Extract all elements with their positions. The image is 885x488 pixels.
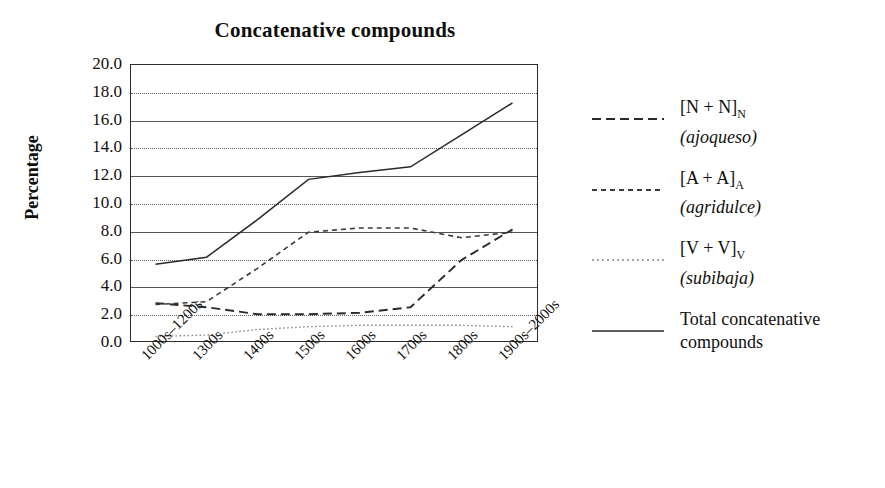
legend-label-v-plus-v: [V + V]V(subibaja) bbox=[680, 237, 877, 290]
legend-entry-a-plus-a[interactable]: [A + A]A(agridulce) bbox=[592, 167, 877, 220]
legend-label-secondary: compounds bbox=[680, 331, 877, 354]
legend-label-total: Total concatenativecompounds bbox=[680, 308, 877, 354]
y-tick-label: 10.0 bbox=[58, 194, 122, 211]
legend-label-secondary: (agridulce) bbox=[680, 196, 877, 219]
legend-swatch-a-plus-a bbox=[592, 178, 664, 180]
series-line bbox=[156, 228, 513, 304]
legend-label-main: Total concatenative bbox=[680, 309, 820, 329]
legend-label-main: [V + V] bbox=[680, 238, 737, 258]
y-tick-label: 20.0 bbox=[58, 55, 122, 72]
legend-entry-n-plus-n[interactable]: [N + N]N(ajoqueso) bbox=[592, 96, 877, 149]
legend-label-a-plus-a: [A + A]A(agridulce) bbox=[680, 167, 877, 220]
x-axis-tick-labels: 1000s–1200s1300s1400s1500s1600s1700s1800… bbox=[130, 342, 538, 482]
chart-title: Concatenative compounds bbox=[130, 18, 540, 43]
legend-label-secondary: (ajoqueso) bbox=[680, 126, 877, 149]
legend-swatch-v-plus-v bbox=[592, 248, 664, 250]
y-tick-label: 8.0 bbox=[58, 222, 122, 239]
legend-label-main: [N + N] bbox=[680, 97, 737, 117]
y-tick-label: 12.0 bbox=[58, 166, 122, 183]
y-tick-label: 16.0 bbox=[58, 111, 122, 128]
y-tick-label: 18.0 bbox=[58, 83, 122, 100]
legend-swatch-n-plus-n bbox=[592, 107, 664, 109]
legend-label-main: [A + A] bbox=[680, 168, 735, 188]
series-line bbox=[156, 229, 513, 314]
series-line bbox=[156, 103, 513, 264]
y-tick-label: 2.0 bbox=[58, 305, 122, 322]
legend-label-subscript: A bbox=[735, 177, 744, 191]
y-tick-label: 14.0 bbox=[58, 138, 122, 155]
y-axis-label: Percentage bbox=[22, 88, 43, 268]
chart-container: Concatenative compounds Percentage 20.01… bbox=[0, 0, 885, 488]
y-axis-tick-labels: 20.018.016.014.012.010.08.06.04.02.00.0 bbox=[54, 64, 122, 342]
y-tick-label: 4.0 bbox=[58, 277, 122, 294]
legend-label-subscript: N bbox=[737, 107, 746, 121]
legend-label-n-plus-n: [N + N]N(ajoqueso) bbox=[680, 96, 877, 149]
legend-entry-v-plus-v[interactable]: [V + V]V(subibaja) bbox=[592, 237, 877, 290]
y-tick-label: 0.0 bbox=[58, 333, 122, 350]
chart-legend: [N + N]N(ajoqueso)[A + A]A(agridulce)[V … bbox=[592, 96, 877, 372]
legend-label-secondary: (subibaja) bbox=[680, 267, 877, 290]
y-tick-label: 6.0 bbox=[58, 250, 122, 267]
legend-swatch-total bbox=[592, 319, 664, 321]
legend-label-subscript: V bbox=[737, 248, 746, 262]
legend-entry-total[interactable]: Total concatenativecompounds bbox=[592, 308, 877, 354]
